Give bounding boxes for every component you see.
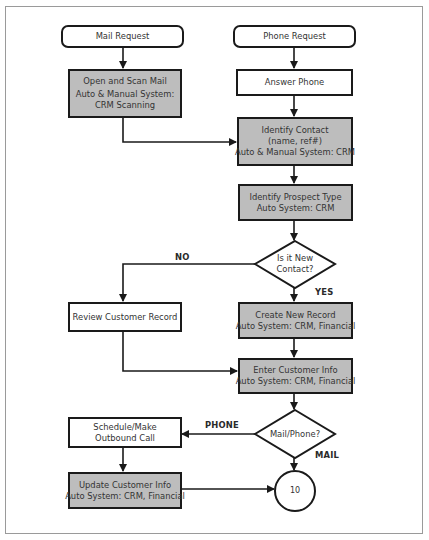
edge-label-phone: PHONE (205, 420, 239, 430)
edge-label-no: NO (175, 252, 190, 262)
edge-scan-to-identify (123, 117, 236, 142)
node-sublabel: Auto System: CRM (257, 203, 335, 214)
decision-label: Mail/Phone? (270, 429, 320, 440)
node-label: Identify Prospect Type (249, 192, 341, 203)
node-label: Schedule/Make (93, 422, 156, 433)
node-label: Open and Scan Mail (83, 76, 166, 87)
node-label: Phone Request (263, 31, 326, 42)
off-page-connector: 10 (280, 486, 310, 495)
node-sublabel: Auto & Manual System: (76, 89, 174, 100)
node-label: Enter Customer Info (253, 365, 337, 376)
node-label: Review Customer Record (73, 312, 178, 323)
node-sublabel: Auto System: CRM, Financial (236, 376, 356, 387)
node-phone-request: Phone Request (233, 25, 356, 48)
node-sublabel: Auto & Manual System: CRM (235, 147, 355, 158)
node-mail-request: Mail Request (61, 25, 184, 48)
node-sublabel: Auto System: CRM, Financial (236, 321, 356, 332)
node-label: Mail Request (96, 31, 150, 42)
node-identify-contact: Identify Contact (name, ref#) Auto & Man… (237, 117, 353, 166)
node-enter-info: Enter Customer Info Auto System: CRM, Fi… (238, 358, 353, 394)
flow-connectors (0, 0, 429, 540)
node-label: Identify Contact (262, 125, 329, 136)
edge-label-mail: MAIL (315, 450, 339, 460)
edge-label-yes: YES (315, 287, 333, 297)
node-sublabel: Auto System: CRM, Financial (65, 491, 185, 502)
node-label: Create New Record (255, 310, 335, 321)
node-review-record: Review Customer Record (68, 302, 182, 332)
node-schedule-call: Schedule/Make Outbound Call (68, 417, 182, 448)
node-answer-phone: Answer Phone (236, 69, 353, 96)
decision-new-contact: Is it New Contact? (262, 252, 328, 276)
decision-label: Contact? (276, 264, 313, 275)
node-label: Update Customer Info (79, 480, 171, 491)
edge-no-to-review (123, 264, 255, 301)
node-create-record: Create New Record Auto System: CRM, Fina… (238, 302, 353, 339)
node-update-info: Update Customer Info Auto System: CRM, F… (68, 472, 182, 509)
node-sublabel: CRM Scanning (95, 100, 155, 111)
node-open-scan-mail: Open and Scan Mail Auto & Manual System:… (68, 69, 182, 118)
node-identify-prospect: Identify Prospect Type Auto System: CRM (238, 184, 353, 221)
edge-review-to-enter (123, 331, 237, 371)
decision-mail-phone: Mail/Phone? (262, 428, 328, 440)
node-label: Outbound Call (95, 433, 155, 444)
node-sublabel: (name, ref#) (268, 136, 322, 147)
decision-label: Is it New (277, 253, 313, 264)
node-label: Answer Phone (265, 77, 324, 88)
